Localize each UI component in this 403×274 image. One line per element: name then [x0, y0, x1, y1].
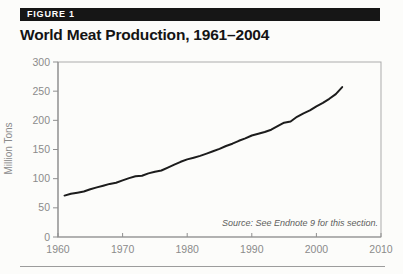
- y-tick-label: 150: [32, 143, 50, 155]
- source-note: Source: See Endnote 9 for this section.: [222, 218, 378, 228]
- y-tick-label: 200: [32, 114, 50, 126]
- data-line: [65, 87, 343, 196]
- y-tick-label: 300: [32, 56, 50, 68]
- figure-page: FIGURE 1 World Meat Production, 1961–200…: [0, 0, 403, 274]
- y-tick-label: 0: [44, 231, 50, 243]
- x-tick-label: 1990: [240, 243, 264, 255]
- x-tick-label: 1970: [111, 243, 135, 255]
- x-tick-label: 1960: [46, 243, 70, 255]
- line-chart: 0501001502002503001960197019801990200020…: [0, 0, 403, 274]
- bottom-rule: [20, 266, 385, 267]
- x-tick-label: 2010: [369, 243, 393, 255]
- y-tick-label: 100: [32, 172, 50, 184]
- x-tick-label: 2000: [305, 243, 329, 255]
- y-axis-title: Million Tons: [3, 114, 14, 184]
- y-tick-label: 50: [38, 201, 50, 213]
- x-tick-label: 1980: [176, 243, 200, 255]
- y-tick-label: 250: [32, 85, 50, 97]
